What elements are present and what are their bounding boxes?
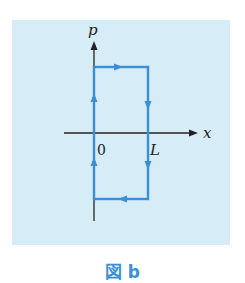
x-axis-label: x	[203, 124, 212, 142]
figure-caption: 図 b	[0, 258, 245, 283]
origin-label: 0	[97, 142, 106, 158]
phase-space-diagram: p x 0 L	[0, 0, 245, 283]
L-label: L	[149, 141, 160, 159]
p-axis-label: p	[88, 21, 98, 39]
phase-space-figure: p x 0 L 図 b	[0, 0, 245, 283]
